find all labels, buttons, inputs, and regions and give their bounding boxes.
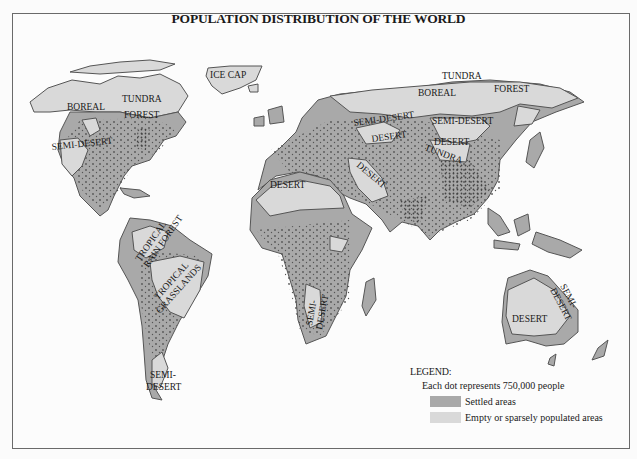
label-desert-sahara: DESERT — [270, 180, 306, 190]
legend-dot-note: Each dot represents 750,000 people — [422, 380, 620, 391]
label-boreal-na: BOREAL — [67, 102, 105, 112]
legend-label-settled: Settled areas — [465, 396, 516, 407]
legend: LEGEND: Each dot represents 750,000 peop… — [410, 366, 620, 423]
legend-item-empty: Empty or sparsely populated areas — [430, 412, 620, 423]
empty-swatch — [430, 412, 461, 423]
label-semi-sa: SEMI- — [150, 370, 176, 380]
label-desert-australia: DESERT — [512, 314, 548, 324]
label-forest-na: FOREST — [124, 110, 160, 120]
label-desert-sa: DESERT — [146, 382, 182, 392]
label-tundra-na: TUNDRA — [122, 94, 162, 104]
label-semi-desert-mongolia: SEMI-DESERT — [432, 116, 493, 126]
label-desert-gobi: DESERT — [434, 137, 470, 147]
settled-swatch — [430, 396, 461, 407]
label-forest-asia: FOREST — [494, 84, 530, 94]
label-boreal-asia: BOREAL — [418, 88, 456, 98]
label-tundra-asia: TUNDRA — [442, 71, 482, 81]
legend-item-settled: Settled areas — [430, 396, 620, 407]
label-ice-cap: ICE CAP — [210, 70, 246, 80]
legend-title: LEGEND: — [410, 366, 620, 377]
legend-label-empty: Empty or sparsely populated areas — [465, 412, 603, 423]
